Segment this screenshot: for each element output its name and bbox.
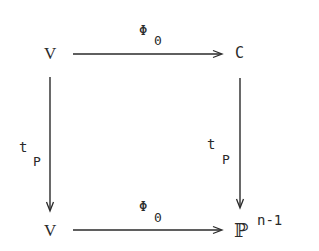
right-arrow-label-subscript: P [222,153,230,166]
left-arrow-label: t [19,140,27,154]
top-arrow [73,51,222,58]
node-bottom-right-superscript: n-1 [257,213,282,227]
right-arrow [237,78,244,208]
bottom-arrow-label: Φ [139,199,147,213]
left-arrow-label-subscript: P [33,155,41,168]
left-arrow [47,77,54,211]
top-arrow-label: Φ [139,23,147,37]
bottom-arrow-label-subscript: 0 [154,211,162,224]
node-top-right: C [235,46,244,61]
node-top-left: V [44,45,56,62]
node-bottom-right-base: ℙ [234,221,248,240]
top-arrow-label-subscript: 0 [154,34,162,47]
right-arrow-label: t [207,137,215,151]
node-bottom-left: V [44,222,56,239]
commutative-diagram: V C V ℙ n-1 Φ 0 Φ 0 t P t P [0,0,319,251]
bottom-arrow [73,227,222,234]
